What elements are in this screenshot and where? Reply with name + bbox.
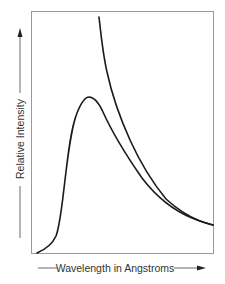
x-axis-label-group: Wavelength in Angstroms [38,262,206,274]
chart: Relative Intensity Wavelength in Angstro… [0,0,225,284]
plot-frame [32,12,214,254]
y-axis-label: Relative Intensity [14,98,26,179]
y-axis-arrow-icon [18,28,23,37]
peaked-curve [37,97,213,253]
y-axis-label-group: Relative Intensity [14,28,26,238]
x-axis-arrow-icon [197,266,206,271]
x-axis-label: Wavelength in Angstroms [56,262,175,274]
